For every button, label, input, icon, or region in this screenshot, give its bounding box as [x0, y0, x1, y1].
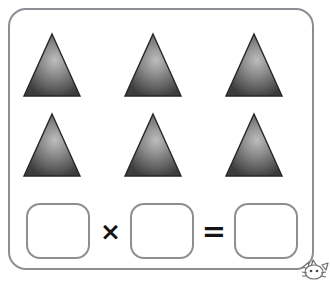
- shape-array-cell: [123, 106, 199, 178]
- cartoon-animal-face-icon: [300, 255, 330, 281]
- shape-array-cell: [123, 26, 199, 98]
- triangle-icon: [123, 112, 183, 178]
- multiplication-equation: × =: [26, 200, 300, 262]
- mascot: [300, 255, 330, 281]
- equals-sign: =: [194, 217, 234, 246]
- triangle-icon: [224, 112, 284, 178]
- triangle-icon: [123, 32, 183, 98]
- product-answer-box[interactable]: [234, 203, 298, 259]
- multiplicand-answer-box[interactable]: [26, 203, 90, 259]
- shape-array-cell: [22, 26, 98, 98]
- worksheet-page: × =: [0, 0, 330, 281]
- triangle-icon: [22, 32, 82, 98]
- shape-array: [22, 22, 300, 182]
- triangle-icon: [224, 32, 284, 98]
- shape-array-cell: [224, 106, 300, 178]
- shape-array-row-1: [22, 26, 300, 98]
- multiplier-answer-box[interactable]: [130, 203, 194, 259]
- shape-array-row-2: [22, 106, 300, 178]
- shape-array-cell: [224, 26, 300, 98]
- multiplication-sign: ×: [90, 219, 130, 244]
- shape-array-cell: [22, 106, 98, 178]
- triangle-icon: [22, 112, 82, 178]
